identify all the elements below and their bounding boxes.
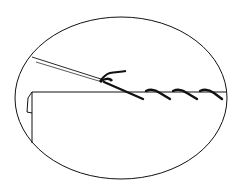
needle xyxy=(32,57,104,82)
stitch-2 xyxy=(146,90,170,99)
stitch-3 xyxy=(173,90,197,99)
whip-stitch-diagram xyxy=(0,0,238,190)
stitch-1 xyxy=(104,82,143,99)
stitches xyxy=(104,82,222,99)
stitch-4 xyxy=(200,90,222,99)
thread-knot xyxy=(100,79,112,82)
